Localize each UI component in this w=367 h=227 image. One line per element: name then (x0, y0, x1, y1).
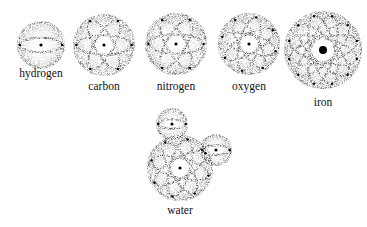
water-oxygen-atom-icon (148, 136, 212, 200)
label-nitrogen: nitrogen (157, 80, 195, 92)
label-iron: iron (314, 96, 333, 108)
carbon-atom-icon (74, 15, 134, 75)
oxygen-atom-icon (219, 14, 279, 74)
label-carbon: carbon (88, 80, 119, 92)
nitrogen-atom-icon (146, 14, 206, 74)
label-water: water (167, 204, 193, 216)
water-hydrogen-1-atom-icon (157, 109, 187, 139)
atom-diagram: hydrogen carbon nitrogen oxygen iron wat… (0, 0, 367, 227)
hydrogen-atom-icon (18, 22, 64, 68)
label-oxygen: oxygen (232, 80, 266, 92)
iron-atom-icon (285, 12, 361, 88)
atoms-illustration (0, 0, 367, 227)
label-hydrogen: hydrogen (19, 67, 62, 79)
